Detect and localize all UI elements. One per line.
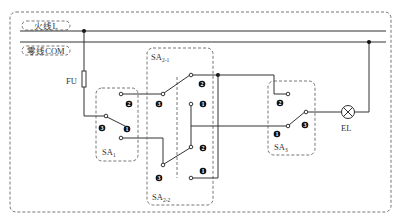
svg-text:3: 3	[158, 175, 161, 181]
svg-text:1: 1	[126, 126, 129, 132]
sa3-label: SA3	[274, 142, 288, 153]
sa2-1-num-3: 3	[156, 101, 163, 108]
sa1-num-2: 2	[126, 101, 133, 108]
sa2-2-lower-terminal	[189, 176, 193, 180]
sa1-upper-terminal	[119, 92, 123, 96]
live-label-text: 火线L	[34, 21, 57, 31]
lamp-label: EL	[341, 123, 351, 133]
sa1-lower-terminal	[119, 136, 123, 140]
sa3-num-3: 3	[302, 122, 309, 129]
sa1-label: SA1	[102, 147, 116, 158]
svg-text:2: 2	[202, 145, 205, 151]
svg-text:3: 3	[158, 101, 161, 107]
wiring-diagram: 火线L 零线COM FU SA1 2 3 1 SA2-1 SA2-2 3 2 1	[0, 0, 399, 217]
sa2-1-lower-terminal	[189, 102, 193, 106]
svg-text:3: 3	[101, 125, 104, 131]
sa3-num-2: 2	[277, 100, 284, 107]
sa2-1-upper-terminal	[189, 73, 193, 77]
svg-text:2: 2	[128, 101, 131, 107]
sa2-2-label: SA2-2	[152, 192, 170, 203]
sa2-1-label: SA2-1	[151, 52, 169, 63]
fuse-icon	[82, 71, 86, 87]
sa2-2-num-1: 1	[200, 168, 207, 175]
sa3-right-terminal	[304, 110, 308, 114]
sa2-1-num-1: 1	[200, 101, 207, 108]
sa1-num-3: 3	[99, 125, 106, 132]
sa2-1-num-2: 2	[199, 81, 206, 88]
svg-text:1: 1	[276, 131, 279, 137]
svg-text:1: 1	[202, 168, 205, 174]
sa2-2-upper-terminal	[189, 145, 193, 149]
neutral-label-text: 零线COM	[27, 46, 65, 56]
svg-text:3: 3	[304, 122, 307, 128]
live-bus-label: 火线L	[22, 21, 70, 31]
sa2-2-num-3: 3	[156, 175, 163, 182]
sa1-num-1: 1	[124, 126, 131, 133]
fuse-label: FU	[66, 76, 77, 86]
neutral-junction-dot	[367, 40, 371, 44]
neutral-bus-label: 零线COM	[22, 46, 70, 56]
sa3-upper-terminal	[286, 92, 290, 96]
svg-text:2: 2	[201, 81, 204, 87]
svg-text:2: 2	[279, 100, 282, 106]
svg-text:1: 1	[202, 101, 205, 107]
sa3-num-1: 1	[274, 131, 281, 138]
lamp-icon	[342, 106, 355, 119]
sa2-2-num-2: 2	[200, 145, 207, 152]
